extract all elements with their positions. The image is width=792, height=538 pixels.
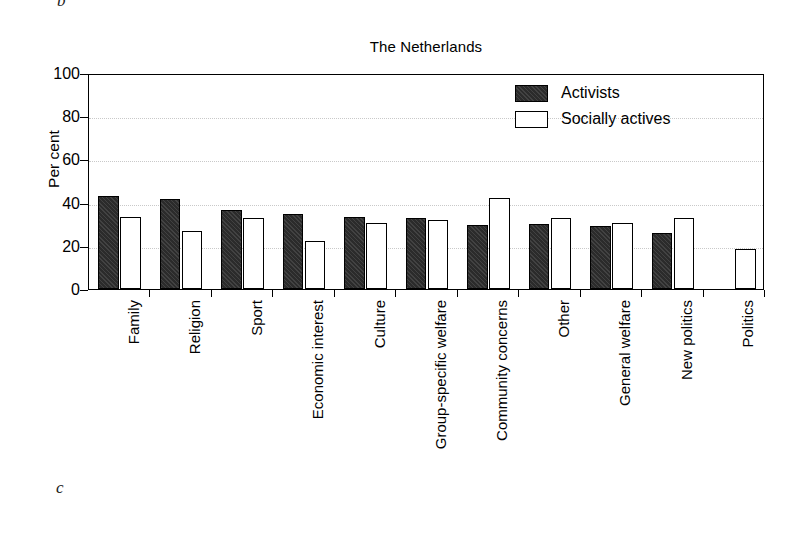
x-tick-mark [395, 290, 396, 297]
x-tick-mark [764, 290, 765, 297]
x-tick-mark [580, 290, 581, 297]
bar-activists-general-welfare [590, 226, 611, 289]
bar-activists-economic-interest [283, 214, 304, 289]
bar-socially-economic-interest [305, 241, 326, 289]
y-tick-mark [80, 160, 88, 161]
x-axis-label: Religion [187, 300, 202, 354]
y-tick-mark [80, 204, 88, 205]
x-axis-label: Politics [740, 300, 755, 348]
x-axis-label: Other [556, 300, 571, 338]
bar-socially-culture [366, 223, 387, 289]
x-axis-label: Economic interest [310, 300, 325, 419]
x-axis-label: New politics [679, 300, 694, 380]
y-tick-mark [80, 247, 88, 248]
x-tick-mark [149, 290, 150, 297]
bar-activists-group-specific-welfare [406, 218, 427, 289]
legend-swatch-socially-actives [515, 111, 548, 128]
gridline [89, 205, 763, 206]
x-tick-mark [272, 290, 273, 297]
legend-label: Activists [561, 85, 620, 101]
gridline [89, 161, 763, 162]
x-tick-mark [334, 290, 335, 297]
x-axis-label: Family [126, 300, 141, 344]
bar-socially-group-specific-welfare [428, 220, 449, 289]
x-tick-mark [518, 290, 519, 297]
x-tick-mark [457, 290, 458, 297]
y-tick-mark [80, 290, 88, 291]
bar-chart-figure: The Netherlands Per cent 020406080100 Fa… [0, 0, 792, 538]
y-tick-label: 60 [34, 152, 80, 168]
bar-socially-new-politics [674, 218, 695, 289]
legend-item: Socially actives [515, 106, 670, 132]
bar-activists-other [529, 224, 550, 289]
chart-title: The Netherlands [88, 38, 764, 55]
legend-item: Activists [515, 80, 670, 106]
bar-activists-sport [221, 210, 242, 289]
bar-socially-religion [182, 231, 203, 289]
x-axis-label: Culture [372, 300, 387, 348]
y-tick-label: 40 [34, 196, 80, 212]
y-tick-mark [80, 117, 88, 118]
bar-activists-family [98, 196, 119, 289]
x-tick-mark [641, 290, 642, 297]
x-tick-mark [703, 290, 704, 297]
bar-socially-family [120, 217, 141, 289]
bar-socially-community-concerns [489, 198, 510, 289]
bar-socially-sport [243, 218, 264, 289]
legend-label: Socially actives [561, 111, 670, 127]
bar-activists-religion [160, 199, 181, 289]
x-tick-mark [211, 290, 212, 297]
bar-activists-culture [344, 217, 365, 289]
bar-socially-other [551, 218, 572, 289]
bar-activists-new-politics [652, 233, 673, 289]
y-tick-label: 20 [34, 239, 80, 255]
legend-swatch-activists [515, 85, 548, 102]
x-axis-label: General welfare [617, 300, 632, 406]
y-tick-label: 0 [34, 282, 80, 298]
y-tick-mark [80, 74, 88, 75]
x-axis-label: Sport [249, 300, 264, 336]
chart-legend: ActivistsSocially actives [515, 80, 670, 132]
y-tick-label: 80 [34, 109, 80, 125]
bar-activists-community-concerns [467, 225, 488, 289]
bar-socially-politics [735, 249, 756, 289]
y-tick-label: 100 [34, 66, 80, 82]
x-axis-label: Community concerns [494, 300, 509, 441]
bar-socially-general-welfare [612, 223, 633, 289]
x-axis-label: Group-specific welfare [433, 300, 448, 449]
